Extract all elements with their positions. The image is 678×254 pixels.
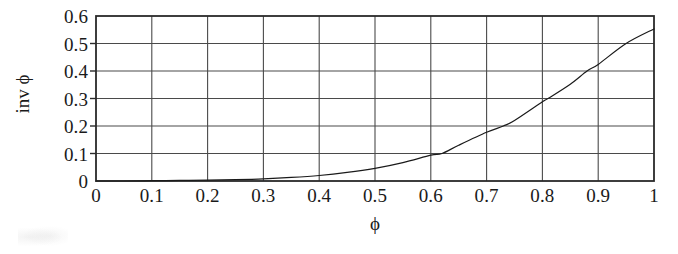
x-tick-label: 0.5 xyxy=(345,186,405,205)
x-tick-label: 0.9 xyxy=(568,186,628,205)
x-axis-title: ϕ xyxy=(345,214,405,234)
y-axis-title: inv ϕ xyxy=(13,49,33,139)
x-tick-label: 0.7 xyxy=(457,186,517,205)
x-tick-label: 0.1 xyxy=(122,186,182,205)
x-tick-label: 0.2 xyxy=(178,186,238,205)
x-tick-label: 0 xyxy=(66,186,126,205)
x-axis-tick-labels: 0 0.1 0.2 0.3 0.4 0.5 0.6 0.7 0.8 0.9 1 xyxy=(0,0,678,254)
x-tick-label: 1 xyxy=(624,186,678,205)
x-tick-label: 0.3 xyxy=(233,186,293,205)
x-tick-label: 0.8 xyxy=(512,186,572,205)
figure: 0.6 0.5 0.4 0.3 0.2 0.1 0 0 0.1 0.2 0.3 … xyxy=(0,0,678,254)
x-tick-label: 0.4 xyxy=(289,186,349,205)
x-tick-label: 0.6 xyxy=(401,186,461,205)
